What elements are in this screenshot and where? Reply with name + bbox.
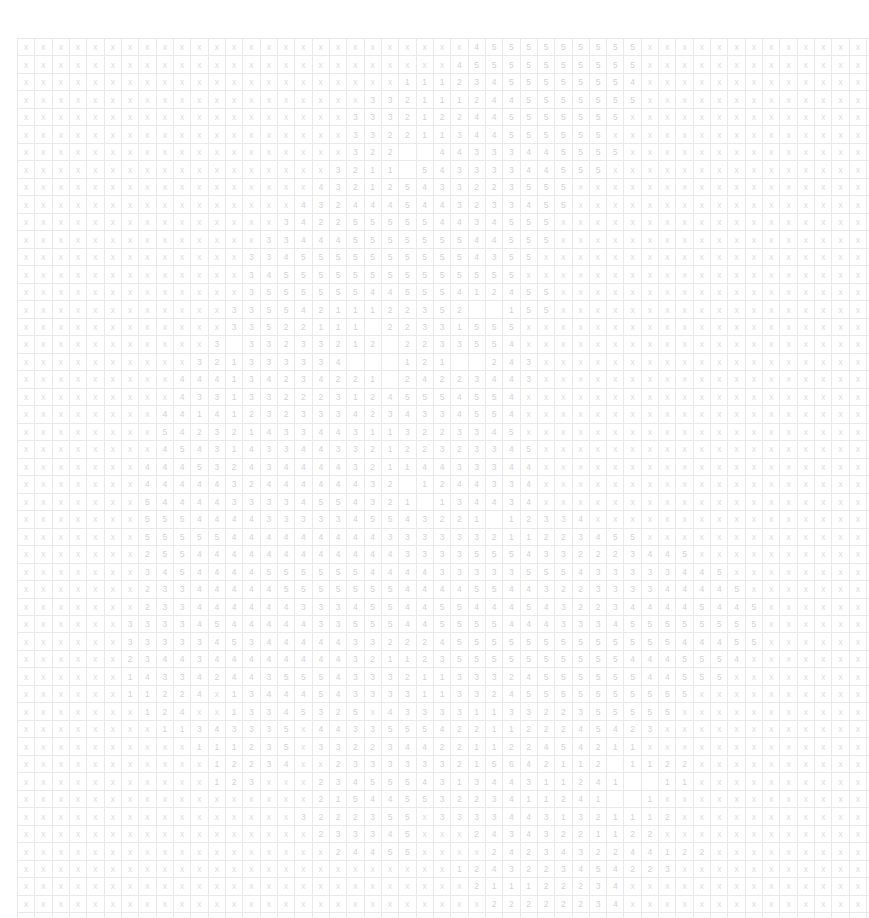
grid-cell[interactable]: 4 — [295, 685, 312, 702]
grid-cell[interactable]: x — [745, 388, 762, 405]
grid-cell[interactable]: x — [18, 56, 35, 73]
grid-cell[interactable]: x — [624, 406, 641, 423]
grid-cell[interactable]: x — [191, 39, 208, 56]
grid-cell[interactable]: 1 — [399, 73, 416, 90]
grid-cell[interactable]: 3 — [312, 738, 329, 755]
grid-cell[interactable]: x — [728, 755, 745, 772]
grid-cell[interactable]: x — [745, 685, 762, 702]
grid-cell[interactable]: 2 — [589, 546, 606, 563]
grid-cell[interactable]: x — [659, 213, 676, 230]
grid-cell[interactable]: 1 — [225, 685, 242, 702]
grid-cell[interactable]: x — [69, 301, 86, 318]
grid-cell[interactable]: x — [104, 248, 121, 265]
grid-cell[interactable]: x — [763, 39, 780, 56]
grid-cell[interactable]: x — [104, 458, 121, 475]
grid-cell[interactable]: 5 — [312, 668, 329, 685]
grid-cell[interactable]: x — [624, 196, 641, 213]
grid-cell[interactable]: 3 — [295, 511, 312, 528]
grid-cell[interactable]: x — [87, 283, 104, 300]
grid-cell[interactable]: x — [52, 563, 69, 580]
grid-cell[interactable]: 4 — [711, 598, 728, 615]
grid-cell[interactable]: x — [711, 371, 728, 388]
grid-cell[interactable] — [381, 353, 398, 370]
grid-cell[interactable]: x — [728, 388, 745, 405]
grid-cell[interactable]: x — [191, 336, 208, 353]
grid-cell[interactable]: 2 — [624, 860, 641, 877]
grid-cell[interactable]: 4 — [503, 458, 520, 475]
grid-cell[interactable]: 5 — [329, 563, 346, 580]
grid-cell[interactable]: 2 — [364, 650, 381, 667]
grid-cell[interactable]: x — [87, 790, 104, 807]
grid-cell[interactable]: x — [18, 633, 35, 650]
grid-cell[interactable]: x — [121, 196, 138, 213]
grid-cell[interactable]: 2 — [312, 790, 329, 807]
grid-cell[interactable]: 5 — [433, 388, 450, 405]
grid-cell[interactable]: 3 — [416, 703, 433, 720]
grid-cell[interactable]: x — [763, 196, 780, 213]
grid-cell[interactable]: 5 — [468, 336, 485, 353]
grid-cell[interactable]: x — [693, 913, 710, 918]
grid-cell[interactable]: x — [555, 283, 572, 300]
grid-cell[interactable]: x — [35, 808, 52, 825]
grid-cell[interactable]: 3 — [347, 720, 364, 737]
grid-cell[interactable]: x — [277, 91, 294, 108]
grid-cell[interactable]: 2 — [347, 371, 364, 388]
grid-cell[interactable]: x — [676, 808, 693, 825]
grid-cell[interactable]: x — [589, 196, 606, 213]
grid-cell[interactable]: x — [745, 755, 762, 772]
grid-cell[interactable]: 4 — [433, 581, 450, 598]
grid-cell[interactable]: x — [797, 913, 814, 918]
grid-cell[interactable]: x — [676, 406, 693, 423]
grid-cell[interactable]: x — [104, 91, 121, 108]
grid-cell[interactable]: 5 — [537, 213, 554, 230]
grid-cell[interactable]: x — [451, 913, 468, 918]
grid-cell[interactable]: 3 — [451, 546, 468, 563]
grid-cell[interactable]: x — [711, 773, 728, 790]
grid-cell[interactable]: x — [589, 248, 606, 265]
grid-cell[interactable]: 5 — [503, 633, 520, 650]
grid-cell[interactable]: x — [52, 668, 69, 685]
grid-cell[interactable]: x — [399, 56, 416, 73]
grid-cell[interactable]: 3 — [555, 913, 572, 918]
grid-cell[interactable]: x — [69, 790, 86, 807]
grid-cell[interactable] — [607, 755, 624, 772]
grid-cell[interactable]: x — [52, 703, 69, 720]
grid-cell[interactable]: 5 — [607, 668, 624, 685]
grid-cell[interactable]: x — [832, 196, 849, 213]
grid-cell[interactable]: x — [589, 336, 606, 353]
grid-cell[interactable]: 4 — [312, 720, 329, 737]
grid-cell[interactable]: 3 — [208, 336, 225, 353]
grid-cell[interactable]: x — [156, 143, 173, 160]
grid-cell[interactable]: x — [121, 878, 138, 895]
grid-cell[interactable]: 2 — [329, 336, 346, 353]
grid-cell[interactable]: 3 — [347, 126, 364, 143]
grid-cell[interactable]: x — [815, 511, 832, 528]
grid-cell[interactable]: x — [832, 720, 849, 737]
grid-cell[interactable]: 1 — [139, 703, 156, 720]
grid-cell[interactable]: 5 — [433, 248, 450, 265]
grid-cell[interactable]: 1 — [607, 773, 624, 790]
grid-cell[interactable]: 1 — [347, 301, 364, 318]
grid-cell[interactable]: x — [763, 895, 780, 912]
grid-cell[interactable]: x — [728, 441, 745, 458]
grid-cell[interactable]: 5 — [728, 633, 745, 650]
grid-cell[interactable]: x — [104, 476, 121, 493]
grid-cell[interactable]: x — [52, 248, 69, 265]
grid-cell[interactable]: x — [763, 371, 780, 388]
grid-cell[interactable]: 2 — [277, 318, 294, 335]
grid-cell[interactable]: x — [277, 196, 294, 213]
grid-cell[interactable]: 5 — [503, 231, 520, 248]
grid-cell[interactable]: 5 — [485, 615, 502, 632]
grid-cell[interactable]: 4 — [329, 423, 346, 440]
grid-cell[interactable]: 3 — [243, 353, 260, 370]
grid-cell[interactable]: 3 — [485, 476, 502, 493]
grid-cell[interactable]: x — [849, 563, 866, 580]
grid-cell[interactable]: 5 — [555, 668, 572, 685]
grid-cell[interactable]: 1 — [676, 773, 693, 790]
grid-cell[interactable]: 5 — [520, 685, 537, 702]
grid-cell[interactable]: x — [797, 703, 814, 720]
grid-cell[interactable]: 4 — [329, 528, 346, 545]
grid-cell[interactable]: x — [797, 388, 814, 405]
grid-cell[interactable]: x — [780, 91, 797, 108]
grid-cell[interactable]: 3 — [468, 563, 485, 580]
